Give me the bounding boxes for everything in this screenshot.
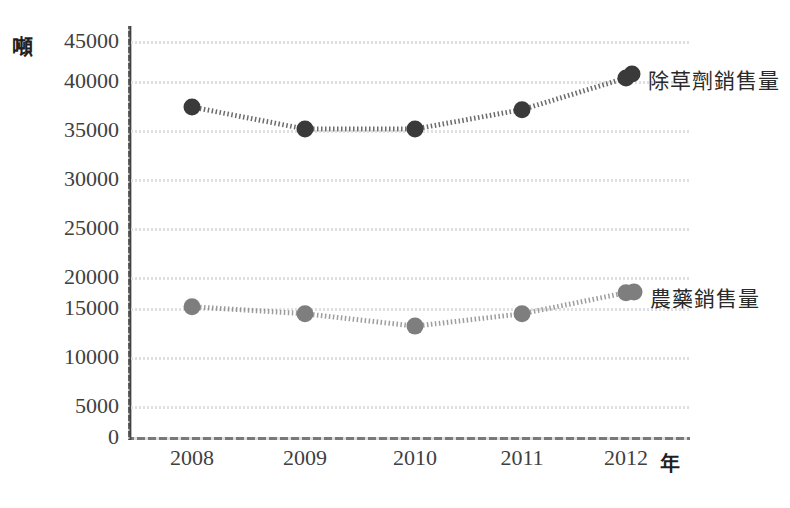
- series-legend-marker-herbicide: [624, 66, 641, 83]
- data-point-marker: [407, 121, 424, 138]
- series-label-pesticide: 農藥銷售量: [650, 282, 760, 312]
- data-point-marker: [297, 305, 314, 322]
- series-legend-marker-pesticide: [626, 284, 643, 301]
- data-point-marker: [184, 99, 201, 116]
- series-line-segment: [415, 314, 522, 326]
- data-point-marker: [514, 101, 531, 118]
- series-line-segment: [522, 293, 626, 314]
- series-line-segment: [415, 110, 522, 129]
- series-line-segment: [192, 107, 305, 129]
- data-point-marker: [297, 121, 314, 138]
- series-line-segment: [522, 78, 626, 110]
- series-pesticide: [184, 284, 635, 334]
- chart-container: 噸 45000 40000 35000 30000 25000 20000 15…: [0, 0, 790, 508]
- series-line-segment: [305, 314, 415, 326]
- data-point-marker: [407, 318, 424, 335]
- series-label-herbicide: 除草劑銷售量: [648, 64, 780, 94]
- series-herbicide: [184, 69, 635, 137]
- data-point-marker: [514, 305, 531, 322]
- series-line-segment: [192, 307, 305, 314]
- data-point-marker: [184, 298, 201, 315]
